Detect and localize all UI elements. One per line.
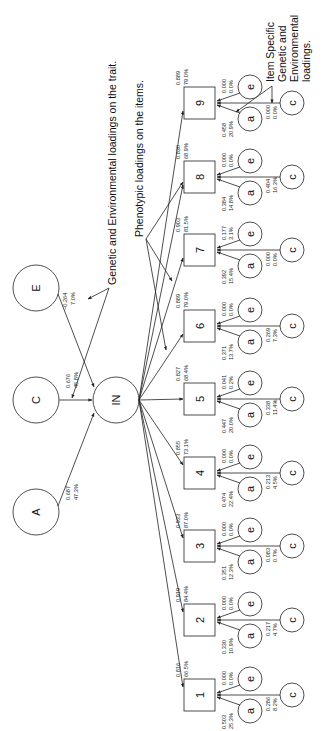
phenotypic-loading: 0.889	[175, 294, 181, 308]
e-loading: 0.000	[221, 153, 227, 167]
annotation-trait-loadings: Genetic and Environmental loadings on th…	[106, 61, 118, 285]
a-percent: 25.3%	[228, 713, 234, 729]
item-4: 40.85573.1%aec0.47422.4%0.0000.0%0.2134.…	[139, 400, 304, 507]
E-percent: 7.0%	[70, 292, 76, 305]
item-label: 8	[194, 174, 206, 180]
e-label: e	[244, 676, 256, 682]
a-label: a	[244, 189, 256, 196]
phenotypic-loading: 0.855	[175, 441, 181, 455]
c-percent: 16.3%	[272, 177, 278, 193]
phenotypic-loading: 0.816	[175, 663, 181, 677]
trait-IN: IN	[93, 377, 139, 423]
e-loading: 0.041	[221, 375, 227, 389]
phenotypic-loading: 0.919	[175, 588, 181, 602]
item-label: 7	[194, 247, 206, 253]
c-loading: 0.083	[265, 548, 271, 562]
phenotypic-percent: 68.4%	[183, 365, 189, 381]
c-loading: 0.213	[265, 475, 271, 489]
e-path	[217, 240, 240, 248]
a-label: a	[244, 558, 256, 565]
e-percent: 0.0%	[228, 672, 234, 685]
c-label: c	[286, 247, 298, 253]
phenotypic-path	[139, 111, 183, 400]
a-loading: 0.458	[221, 123, 227, 137]
a-path	[217, 179, 240, 187]
latent-E-label: E	[30, 284, 42, 291]
e-label: e	[244, 380, 256, 386]
e-label: e	[244, 84, 256, 90]
trait-label: IN	[110, 394, 122, 405]
phenotypic-percent: 87.0%	[183, 512, 189, 528]
phenotypic-path	[139, 399, 183, 400]
a-percent: 15.4%	[228, 268, 234, 284]
a-path	[217, 252, 240, 260]
latent-A-label: A	[30, 508, 42, 516]
item-5: 50.82768.4%aec0.44720.0%0.0410.2%0.33811…	[139, 365, 304, 433]
c-label: c	[286, 692, 298, 698]
a-label: a	[244, 707, 256, 714]
item-specific-line-1: Item Specific	[264, 22, 276, 82]
c-loading: 0.000	[265, 252, 271, 266]
c-loading: 0.217	[265, 622, 271, 636]
item-label: 3	[194, 543, 206, 549]
phenotypic-percent: 66.5%	[183, 661, 189, 677]
a-percent: 13.7%	[228, 344, 234, 360]
c-percent: 0.0%	[272, 253, 278, 266]
item-specific-line-3: Environmental	[288, 15, 300, 82]
a-percent: 22.4%	[228, 491, 234, 507]
annotation-item-specific: Item Specific Genetic and Environmental …	[264, 15, 312, 82]
items-layer: 10.81666.5%aec0.50325.3%0.0000.0%0.2868.…	[139, 69, 304, 729]
phenotypic-percent: 68.9%	[183, 143, 189, 159]
c-label: c	[286, 174, 298, 180]
e-percent: 0.0%	[228, 597, 234, 610]
a-loading: 0.503	[221, 715, 227, 729]
a-label: a	[244, 632, 256, 639]
item-label: 9	[194, 100, 206, 106]
e-path	[217, 463, 240, 471]
latent-C-label: C	[30, 396, 42, 404]
e-label: e	[244, 527, 256, 533]
e-loading: 0.000	[221, 596, 227, 610]
phenotypic-percent: 81.5%	[183, 216, 189, 232]
e-label: e	[244, 158, 256, 164]
a-label: a	[244, 485, 256, 492]
a-path	[217, 622, 240, 630]
e-percent: 0.2%	[228, 376, 234, 389]
a-path	[217, 475, 240, 483]
c-loading: 0.338	[265, 401, 271, 415]
phenotypic-percent: 73.1%	[183, 439, 189, 455]
e-label: e	[244, 231, 256, 237]
a-path	[217, 548, 240, 556]
c-label: c	[286, 100, 298, 106]
c-label: c	[286, 323, 298, 329]
c-percent: 0.0%	[272, 106, 278, 119]
e-percent: 0.0%	[228, 154, 234, 167]
e-path	[217, 167, 240, 175]
a-loading: 0.330	[221, 640, 227, 654]
c-percent: 7.3%	[272, 329, 278, 342]
e-loading: 0.000	[221, 449, 227, 463]
e-path	[217, 610, 240, 618]
e-loading: 0.177	[221, 226, 227, 240]
e-path	[217, 685, 240, 693]
a-path	[217, 697, 240, 705]
c-loading: 0.000	[265, 105, 271, 119]
a-loading: 0.371	[221, 346, 227, 360]
a-path	[217, 105, 240, 113]
a-loading: 0.447	[221, 419, 227, 433]
item-label: 2	[194, 617, 206, 623]
c-percent: 4.7%	[272, 623, 278, 636]
phenotypic-loading: 0.889	[175, 71, 181, 85]
e-path	[217, 316, 240, 324]
phenotypic-loading: 0.827	[175, 367, 181, 381]
phenotypic-loading: 0.933	[175, 514, 181, 528]
a-label: a	[244, 411, 256, 418]
c-label: c	[286, 470, 298, 476]
E-loading: −0.264	[62, 293, 68, 310]
A-percent: 47.3%	[73, 484, 79, 500]
path-diagram: A C E IN 0.687 47.3% 0.676 45.8% −0.264 …	[0, 0, 324, 731]
a-percent: 20.9%	[228, 121, 234, 137]
a-percent: 20.0%	[228, 417, 234, 433]
a-label: a	[244, 338, 256, 345]
e-path	[217, 93, 240, 101]
